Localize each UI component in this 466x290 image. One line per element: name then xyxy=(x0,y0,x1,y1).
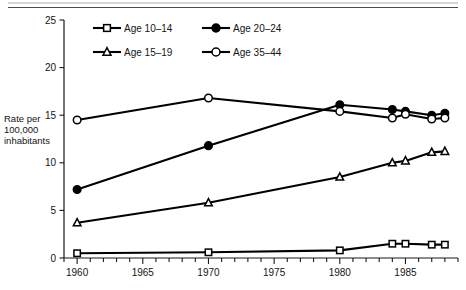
marker-open-square xyxy=(74,250,80,256)
y-axis-title: Rate per 100,000 inhabitants xyxy=(4,113,62,146)
marker-open-circle xyxy=(402,110,410,118)
line-chart: 0510152025 196019651970197519801985 Age … xyxy=(0,0,466,290)
marker-open-square xyxy=(429,241,435,247)
marker-open-square xyxy=(205,249,211,255)
x-tick-label: 1980 xyxy=(329,267,352,278)
legend-entry: Age 15–19 xyxy=(93,47,173,58)
marker-open-square xyxy=(442,241,448,247)
marker-open-circle xyxy=(205,94,213,102)
legend-entry: Age 35–44 xyxy=(202,47,282,58)
marker-open-square xyxy=(402,241,408,247)
y-tick-label: 5 xyxy=(50,205,56,216)
marker-filled-circle xyxy=(73,186,81,194)
x-tick-label: 1970 xyxy=(197,267,220,278)
marker-open-circle xyxy=(73,116,81,124)
header-rule-faint xyxy=(8,2,458,4)
legend-entry: Age 20–24 xyxy=(202,23,282,34)
y-tick-label: 20 xyxy=(45,62,57,73)
marker-open-circle xyxy=(212,48,220,56)
header-rule xyxy=(8,7,458,8)
y-tick-label: 25 xyxy=(45,15,57,26)
series-group xyxy=(73,94,448,256)
marker-open-triangle xyxy=(103,48,111,56)
figure-container: Rate per 100,000 inhabitants 0510152025 … xyxy=(0,0,466,290)
x-tick-label: 1965 xyxy=(132,267,155,278)
marker-open-triangle xyxy=(428,148,436,155)
data-series xyxy=(74,241,448,257)
x-tick-label: 1985 xyxy=(394,267,417,278)
marker-open-triangle xyxy=(402,157,410,164)
data-series xyxy=(73,147,448,226)
x-tick-label: 1975 xyxy=(263,267,286,278)
marker-open-triangle xyxy=(336,173,344,180)
chart-legend: Age 10–14Age 20–24Age 15–19Age 35–44 xyxy=(93,23,282,58)
legend-label: Age 10–14 xyxy=(124,23,173,34)
y-axis-title-line-3: inhabitants xyxy=(4,135,62,146)
marker-open-circle xyxy=(428,115,436,123)
marker-open-square xyxy=(389,241,395,247)
marker-open-triangle xyxy=(389,159,397,166)
marker-open-triangle xyxy=(205,199,213,206)
y-axis-title-line-1: Rate per xyxy=(4,113,62,124)
legend-label: Age 20–24 xyxy=(233,23,282,34)
marker-filled-circle xyxy=(205,142,213,150)
marker-filled-circle xyxy=(389,106,397,114)
y-axis-title-line-2: 100,000 xyxy=(4,124,62,135)
marker-open-square xyxy=(337,247,343,253)
legend-label: Age 15–19 xyxy=(124,47,173,58)
marker-open-circle xyxy=(389,114,397,122)
marker-open-triangle xyxy=(441,147,449,154)
legend-entry: Age 10–14 xyxy=(93,23,173,34)
marker-open-circle xyxy=(441,114,449,122)
marker-open-circle xyxy=(336,108,344,116)
marker-filled-circle xyxy=(212,24,220,32)
marker-open-square xyxy=(104,25,111,32)
x-tick-label: 1960 xyxy=(66,267,89,278)
y-tick-label: 0 xyxy=(50,253,56,264)
y-tick-label: 10 xyxy=(45,157,57,168)
legend-label: Age 35–44 xyxy=(233,47,282,58)
x-axis-ticks: 196019651970197519801985 xyxy=(64,258,458,278)
marker-open-triangle xyxy=(73,219,81,226)
